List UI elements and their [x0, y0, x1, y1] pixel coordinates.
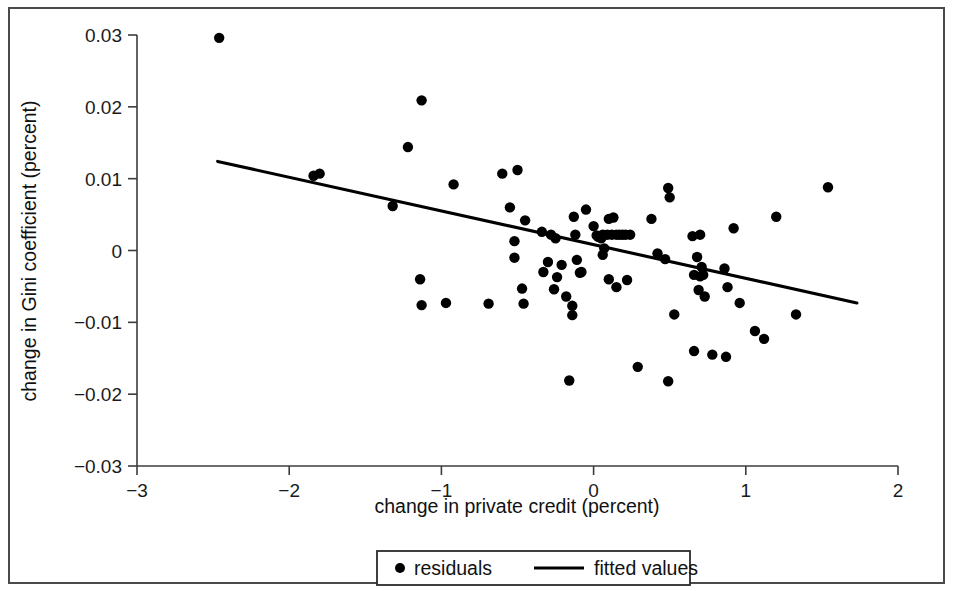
x-axis-title: change in private credit (percent): [374, 495, 659, 517]
legend-marker-residuals: [395, 563, 405, 573]
data-point: [633, 362, 643, 372]
legend-label-fitted-values: fitted values: [594, 557, 698, 579]
x-tick-label: 1: [741, 480, 752, 501]
y-tick-label: 0: [111, 241, 122, 262]
data-point: [441, 298, 451, 308]
data-point: [721, 352, 731, 362]
figure-container: 0.030.020.010−0.01−0.02−0.03 −3−2−1012 c…: [0, 0, 953, 591]
data-point: [646, 214, 656, 224]
data-point: [663, 183, 673, 193]
data-point: [588, 221, 598, 231]
data-point: [567, 301, 577, 311]
data-point: [692, 252, 702, 262]
data-point: [567, 310, 577, 320]
y-tick-label: 0.03: [85, 25, 122, 46]
data-point: [604, 274, 614, 284]
data-point: [549, 284, 559, 294]
legend-label-residuals: residuals: [414, 557, 492, 579]
fitted-line-group: [218, 161, 857, 303]
legend: residuals fitted values: [377, 551, 698, 585]
y-tick-label: −0.01: [74, 312, 122, 333]
x-tick-label: 2: [893, 480, 904, 501]
data-point: [403, 142, 413, 152]
data-point: [538, 267, 548, 277]
x-tick-label: −3: [126, 480, 148, 501]
data-point: [448, 179, 458, 189]
data-point: [505, 202, 515, 212]
data-point: [581, 204, 591, 214]
data-point: [722, 282, 732, 292]
data-point: [625, 229, 635, 239]
data-point: [791, 309, 801, 319]
data-point: [509, 236, 519, 246]
y-tick-label: 0.01: [85, 169, 122, 190]
data-point: [695, 271, 705, 281]
data-point: [665, 192, 675, 202]
data-point: [622, 275, 632, 285]
data-point: [823, 182, 833, 192]
data-point: [735, 298, 745, 308]
data-point: [416, 300, 426, 310]
data-point: [483, 298, 493, 308]
data-point: [415, 274, 425, 284]
y-axis-ticks: 0.030.020.010−0.01−0.02−0.03: [74, 25, 137, 477]
data-point: [569, 212, 579, 222]
data-point: [543, 257, 553, 267]
data-point: [695, 229, 705, 239]
data-point: [771, 212, 781, 222]
fitted-line: [218, 161, 857, 303]
data-point: [416, 95, 426, 105]
scatter-plot: 0.030.020.010−0.01−0.02−0.03 −3−2−1012 c…: [0, 0, 953, 591]
data-point: [598, 250, 608, 260]
data-point: [520, 215, 530, 225]
x-tick-label: −2: [278, 480, 300, 501]
y-tick-label: −0.03: [74, 456, 122, 477]
data-point: [564, 375, 574, 385]
data-point: [707, 349, 717, 359]
data-point: [497, 168, 507, 178]
data-point: [552, 272, 562, 282]
data-point: [669, 309, 679, 319]
data-point: [608, 212, 618, 222]
data-point: [750, 326, 760, 336]
data-point: [512, 165, 522, 175]
data-point: [556, 260, 566, 270]
data-point: [314, 168, 324, 178]
data-point: [689, 346, 699, 356]
data-point: [518, 298, 528, 308]
data-point: [700, 291, 710, 301]
data-point: [509, 252, 519, 262]
data-point: [572, 255, 582, 265]
data-point: [214, 33, 224, 43]
data-point: [561, 291, 571, 301]
data-point: [611, 282, 621, 292]
data-point: [663, 376, 673, 386]
data-point: [517, 283, 527, 293]
y-tick-label: −0.02: [74, 384, 122, 405]
data-points-group: [214, 33, 833, 387]
y-axis-title: change in Gini coefficient (percent): [18, 101, 40, 402]
y-tick-label: 0.02: [85, 97, 122, 118]
data-point: [576, 267, 586, 277]
data-point: [728, 223, 738, 233]
data-point: [759, 334, 769, 344]
